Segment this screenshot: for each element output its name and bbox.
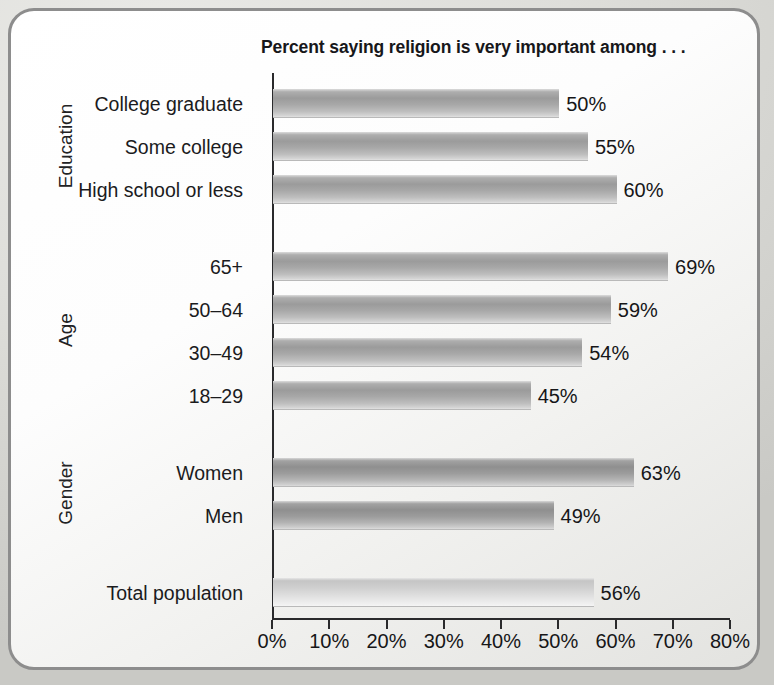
bar-value-label: 60% xyxy=(624,178,664,201)
category-label: High school or less xyxy=(8,178,243,201)
bar xyxy=(273,132,588,161)
category-label: Total population xyxy=(8,581,243,604)
x-tick-label: 20% xyxy=(366,630,406,653)
chart-screenshot: Percent saying religion is very importan… xyxy=(0,0,774,685)
x-tick-label: 40% xyxy=(481,630,521,653)
x-tick-label: 0% xyxy=(258,630,287,653)
bar xyxy=(273,578,594,607)
bar-value-label: 59% xyxy=(618,298,658,321)
category-label: 50–64 xyxy=(8,298,243,321)
bar xyxy=(273,338,582,367)
x-tick-label: 80% xyxy=(710,630,750,653)
x-tick xyxy=(557,620,559,629)
bar xyxy=(273,252,668,281)
bar xyxy=(273,381,531,410)
x-tick xyxy=(443,620,445,629)
bar xyxy=(273,175,617,204)
x-tick xyxy=(271,620,273,629)
category-label: 30–49 xyxy=(8,341,243,364)
x-tick xyxy=(729,620,731,629)
chart-title: Percent saying religion is very importan… xyxy=(261,37,760,58)
x-tick xyxy=(615,620,617,629)
bar-value-label: 69% xyxy=(675,255,715,278)
bar-value-label: 63% xyxy=(641,461,681,484)
bar-value-label: 54% xyxy=(589,341,629,364)
category-label: 65+ xyxy=(8,255,243,278)
bar-value-label: 50% xyxy=(566,92,606,115)
category-label: College graduate xyxy=(8,92,243,115)
x-tick-label: 50% xyxy=(538,630,578,653)
x-tick xyxy=(672,620,674,629)
x-tick-label: 30% xyxy=(424,630,464,653)
bar xyxy=(273,458,634,487)
bar-value-label: 55% xyxy=(595,135,635,158)
chart-plot-area: Percent saying religion is very importan… xyxy=(11,11,757,667)
bar xyxy=(273,89,559,118)
chart-frame: Percent saying religion is very importan… xyxy=(8,8,760,670)
group-label-gender: Gender xyxy=(11,482,121,504)
x-tick-label: 60% xyxy=(595,630,635,653)
category-label: Women xyxy=(8,461,243,484)
x-tick-label: 10% xyxy=(309,630,349,653)
bar-value-label: 56% xyxy=(601,581,641,604)
x-tick-label: 70% xyxy=(653,630,693,653)
group-label-age: Age xyxy=(11,319,121,341)
category-label: Some college xyxy=(8,135,243,158)
bar-value-label: 45% xyxy=(538,384,578,407)
x-tick xyxy=(386,620,388,629)
bar xyxy=(273,295,611,324)
x-tick xyxy=(328,620,330,629)
bar xyxy=(273,501,554,530)
category-label: Men xyxy=(8,504,243,527)
x-tick xyxy=(500,620,502,629)
category-label: 18–29 xyxy=(8,384,243,407)
bar-value-label: 49% xyxy=(561,504,601,527)
